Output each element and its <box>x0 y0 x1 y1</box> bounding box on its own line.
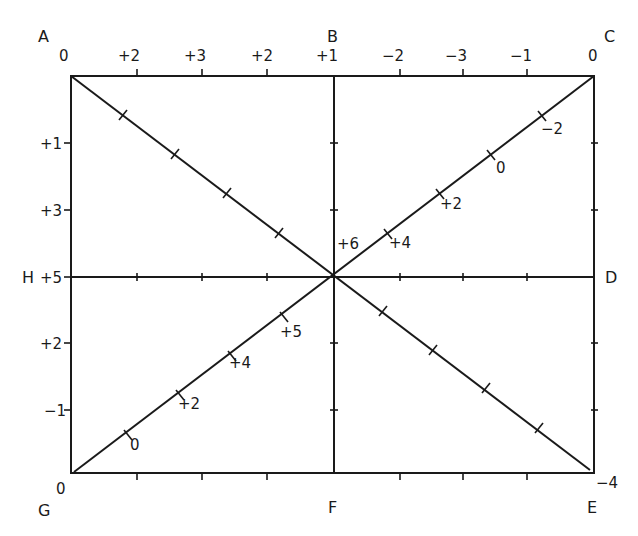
svg-text:0: 0 <box>59 47 69 65</box>
bottom-left-value: 0 <box>56 480 66 498</box>
corner-label-C: C <box>604 27 615 46</box>
lower-left-diagonal-labels: +5 +4 +2 0 <box>130 323 302 454</box>
svg-text:−3: −3 <box>445 47 467 65</box>
left-edge-labels: +1 +3 +5 +2 −1 <box>40 135 66 420</box>
left-edge-ticks <box>64 143 71 410</box>
svg-text:+1: +1 <box>316 47 338 65</box>
svg-text:−1: −1 <box>510 47 532 65</box>
svg-text:0: 0 <box>496 159 506 177</box>
diagonal-A-E <box>71 76 590 470</box>
svg-text:−2: −2 <box>541 120 563 138</box>
corner-label-B: B <box>327 27 338 46</box>
corner-label-D: D <box>605 268 617 287</box>
top-edge-labels: 0 +2 +3 +2 +1 −2 −3 −1 0 <box>59 47 598 65</box>
corner-label-G: G <box>38 501 50 520</box>
svg-text:+2: +2 <box>178 395 200 413</box>
svg-text:+1: +1 <box>40 135 62 153</box>
diagonal-A-E-ticks <box>119 110 543 433</box>
svg-text:+2: +2 <box>118 47 140 65</box>
svg-text:+5: +5 <box>280 323 302 341</box>
top-edge-ticks <box>137 69 527 76</box>
corner-label-A: A <box>38 27 49 46</box>
center-value-label: +6 <box>337 235 359 253</box>
field-diagram: A B C D E F G H 0 +2 +3 +2 +1 −2 −3 −1 0… <box>0 0 638 536</box>
svg-text:−1: −1 <box>44 402 66 420</box>
svg-text:+2: +2 <box>40 335 62 353</box>
svg-text:+3: +3 <box>40 202 62 220</box>
svg-text:+2: +2 <box>440 195 462 213</box>
svg-text:+4: +4 <box>389 234 411 252</box>
bottom-right-value: −4 <box>596 474 618 492</box>
svg-text:+4: +4 <box>229 354 251 372</box>
svg-text:+5: +5 <box>40 269 62 287</box>
upper-right-diagonal-labels: −2 0 +2 +4 <box>389 120 563 252</box>
corner-label-E: E <box>587 498 597 517</box>
svg-text:0: 0 <box>130 436 140 454</box>
corner-label-H: H <box>22 268 34 287</box>
svg-text:0: 0 <box>588 47 598 65</box>
svg-text:−2: −2 <box>382 47 404 65</box>
corner-label-F: F <box>328 498 337 517</box>
svg-text:+2: +2 <box>251 47 273 65</box>
svg-text:+3: +3 <box>184 47 206 65</box>
bottom-edge-ticks <box>137 473 527 480</box>
